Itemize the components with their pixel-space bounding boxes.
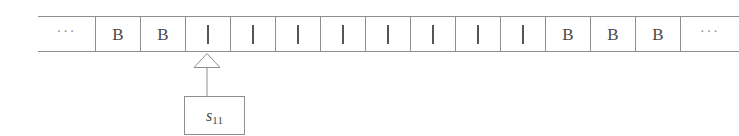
tape-cell-label: B bbox=[607, 26, 618, 43]
tape-cell-label bbox=[207, 25, 209, 44]
tape-cell[interactable] bbox=[276, 17, 321, 51]
tape-cell[interactable]: B bbox=[636, 17, 681, 51]
tape-cell-label: B bbox=[652, 26, 663, 43]
tape-cell-label bbox=[387, 25, 389, 44]
tape-cell[interactable] bbox=[321, 17, 366, 51]
tape-cell[interactable] bbox=[366, 17, 411, 51]
tape-cell[interactable] bbox=[231, 17, 276, 51]
tape-cell-label bbox=[342, 25, 344, 44]
tape-cell[interactable]: B bbox=[546, 17, 591, 51]
tape-cell-label: B bbox=[157, 26, 168, 43]
tape-cell-label: ··· bbox=[57, 25, 77, 39]
tape-strip: ··· B B bbox=[38, 16, 739, 52]
tape-cell-label: B bbox=[112, 26, 123, 43]
tape-cell[interactable]: ··· bbox=[38, 17, 96, 51]
up-triangle-outline-icon bbox=[183, 52, 231, 98]
state-label: s11 bbox=[206, 107, 223, 125]
tape-cell[interactable]: B bbox=[591, 17, 636, 51]
tape-cell[interactable]: ··· bbox=[681, 17, 739, 51]
tape-cell-head[interactable] bbox=[186, 17, 231, 51]
tape-cell-label bbox=[252, 25, 254, 44]
state-subscript: 11 bbox=[212, 114, 223, 126]
tape-cell[interactable] bbox=[456, 17, 501, 51]
tape-cell[interactable] bbox=[501, 17, 546, 51]
tape-cell[interactable] bbox=[411, 17, 456, 51]
tape-cell-label bbox=[522, 25, 524, 44]
state-box[interactable]: s11 bbox=[184, 96, 245, 135]
tape-cell-label bbox=[297, 25, 299, 44]
tape-cell-label bbox=[477, 25, 479, 44]
tape-cell-label: B bbox=[562, 26, 573, 43]
tape-cell-label bbox=[432, 25, 434, 44]
tape-cell[interactable]: B bbox=[141, 17, 186, 51]
tape-cell-label: ··· bbox=[700, 25, 720, 39]
tape-cell[interactable]: B bbox=[96, 17, 141, 51]
